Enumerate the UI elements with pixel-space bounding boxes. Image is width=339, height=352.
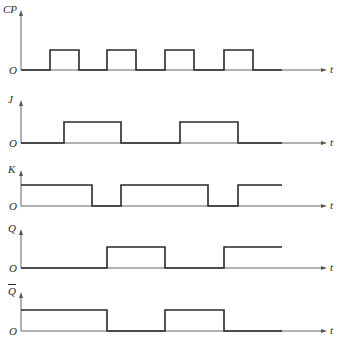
y-axis-arrow-icon xyxy=(19,229,23,235)
y-axis-arrow-icon xyxy=(19,10,23,16)
time-axis-arrow-icon xyxy=(321,141,327,145)
signal-label-cp: CP xyxy=(3,4,17,15)
waveform xyxy=(21,247,282,268)
origin-label: O xyxy=(9,263,17,274)
signal-label-q: Q xyxy=(8,223,16,234)
time-axis-arrow-icon xyxy=(321,329,327,333)
waveform-canvas xyxy=(0,0,339,352)
origin-label: O xyxy=(9,65,17,76)
y-axis-arrow-icon xyxy=(19,170,23,176)
time-axis-arrow-icon xyxy=(321,204,327,208)
signal-label-qbar: Q xyxy=(8,286,16,297)
signal-k xyxy=(19,170,327,208)
time-axis-arrow-icon xyxy=(321,266,327,270)
waveform xyxy=(21,185,282,206)
waveform xyxy=(21,310,282,331)
origin-label: O xyxy=(9,326,17,337)
time-axis-label: t xyxy=(330,137,333,148)
signal-j xyxy=(19,100,327,145)
origin-label: O xyxy=(9,138,17,149)
time-axis-label: t xyxy=(330,200,333,211)
signal-label-j: J xyxy=(8,94,13,105)
origin-label: O xyxy=(9,201,17,212)
waveform xyxy=(21,50,282,70)
signal-label-k: K xyxy=(8,164,15,175)
time-axis-label: t xyxy=(330,64,333,75)
y-axis-arrow-icon xyxy=(19,100,23,106)
signal-cp xyxy=(19,10,327,72)
time-axis-label: t xyxy=(330,325,333,336)
y-axis-arrow-icon xyxy=(19,292,23,298)
time-axis-arrow-icon xyxy=(321,68,327,72)
signal-qbar xyxy=(19,292,327,333)
waveform xyxy=(21,122,282,143)
signal-q xyxy=(19,229,327,270)
time-axis-label: t xyxy=(330,262,333,273)
